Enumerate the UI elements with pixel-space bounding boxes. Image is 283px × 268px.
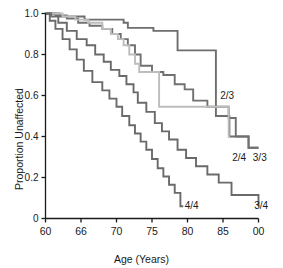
- series-line-2-4: [46, 14, 231, 137]
- y-tick-label: 0.4: [25, 131, 39, 142]
- axis-layer: [42, 14, 259, 223]
- series-label-3-4: 3/4: [254, 200, 268, 211]
- series-label-2-3: 2/3: [220, 90, 234, 101]
- y-tick-label: 0: [33, 213, 39, 224]
- survival-curve-figure: 00.20.40.60.81.060667075808500 2/33/32/4…: [0, 0, 283, 268]
- x-tick-label: 70: [111, 225, 123, 237]
- x-tick-label: 00: [253, 225, 265, 237]
- series-label-layer: 2/33/32/43/44/4: [185, 90, 269, 211]
- series-line-3-4: [46, 14, 259, 207]
- y-tick-label: 0.6: [25, 90, 39, 101]
- x-tick-label: 80: [182, 225, 194, 237]
- x-tick-label: 85: [217, 225, 229, 237]
- series-label-2-4: 2/4: [232, 152, 246, 163]
- series-layer: [46, 14, 259, 207]
- x-tick-label: 75: [146, 225, 158, 237]
- y-tick-label: 0.2: [25, 172, 39, 183]
- series-label-4-4: 4/4: [185, 200, 199, 211]
- y-tick-label: 1.0: [25, 8, 39, 19]
- x-tick-label: 66: [75, 225, 87, 237]
- y-tick-label: 0.8: [25, 49, 39, 60]
- series-line-4-4: [46, 14, 184, 207]
- x-tick-label: 60: [40, 225, 52, 237]
- series-label-3-3: 3/3: [253, 152, 267, 163]
- plot-area: 00.20.40.60.81.060667075808500 2/33/32/4…: [0, 0, 283, 268]
- y-axis-title: Proportion Unaffected: [13, 88, 25, 190]
- x-axis-title: Age (Years): [0, 253, 283, 265]
